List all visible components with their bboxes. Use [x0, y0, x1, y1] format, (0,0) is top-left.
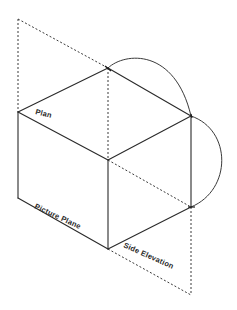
rotation-arcs: [108, 58, 222, 207]
picture-plane-label: Picture Plane: [33, 202, 82, 231]
upper-rotation-arc: [108, 58, 191, 116]
vertex-marks: [105, 66, 195, 207]
side-elevation-label: Side Elevation: [122, 241, 175, 271]
plan-label: Plan: [35, 107, 54, 120]
construction-lines: [18, 19, 191, 295]
lower-rotation-arc: [191, 116, 222, 207]
middle-diagonal-construction: [108, 160, 191, 207]
projection-diagram: Plan Picture Plane Side Elevation: [0, 0, 237, 310]
cube-edges: [18, 68, 191, 249]
top-diagonal-construction: [18, 19, 108, 68]
